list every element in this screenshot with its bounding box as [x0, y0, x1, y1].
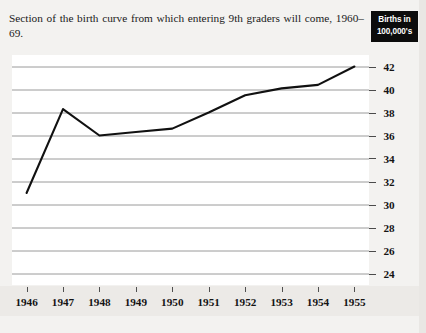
y-axis-tick-mark [369, 228, 376, 229]
y-axis-tick-mark [369, 251, 376, 252]
title-band: Section of the birth curve from which en… [0, 0, 426, 55]
x-axis-tick-label: 1950 [152, 296, 192, 308]
x-axis-tick-label: 1953 [262, 296, 302, 308]
x-axis-tick-mark [99, 287, 100, 292]
y-axis-tick-mark [369, 136, 376, 137]
x-axis-tick-mark [282, 287, 283, 292]
x-axis-tick-mark [27, 287, 28, 292]
x-axis-tick-mark [354, 287, 355, 292]
x-axis: 1946194719481949195019511952195319541955 [0, 286, 426, 316]
y-axis-tick-mark [369, 158, 376, 159]
right-edge-strip [419, 0, 426, 333]
plot-area [12, 55, 369, 285]
x-axis-tick-mark [136, 287, 137, 292]
legend-line-1: Births in [371, 14, 418, 26]
y-axis-tick-mark [369, 205, 376, 206]
x-axis-tick-label: 1949 [116, 296, 156, 308]
x-axis-tick-label: 1955 [334, 296, 374, 308]
y-axis-tick-mark [369, 113, 376, 114]
bottom-band [0, 316, 426, 333]
chart-svg [12, 55, 369, 285]
y-axis-tick-mark [369, 274, 376, 275]
chart-title: Section of the birth curve from which en… [9, 11, 364, 40]
y-axis-tick-mark [369, 182, 376, 183]
x-axis-tick-mark [209, 287, 210, 292]
y-axis-tick-mark [369, 90, 376, 91]
x-axis-tick-label: 1952 [225, 296, 265, 308]
x-axis-tick-mark [63, 287, 64, 292]
x-axis-tick-mark [245, 287, 246, 292]
legend-line-2: 100,000's [371, 26, 418, 38]
x-axis-tick-mark [318, 287, 319, 292]
gridlines [12, 67, 369, 274]
x-axis-tick-label: 1947 [43, 296, 83, 308]
x-axis-tick-label: 1951 [189, 296, 229, 308]
birth-curve-line [27, 67, 355, 194]
x-axis-tick-label: 1948 [79, 296, 119, 308]
legend-units-box: Births in 100,000's [371, 11, 418, 42]
x-axis-tick-label: 1954 [298, 296, 338, 308]
y-axis-tick-mark [369, 67, 376, 68]
chart-page: Section of the birth curve from which en… [0, 0, 426, 333]
x-axis-tick-label: 1946 [7, 296, 47, 308]
x-axis-tick-mark [172, 287, 173, 292]
y-axis: 42403836343230282624 [369, 55, 426, 285]
